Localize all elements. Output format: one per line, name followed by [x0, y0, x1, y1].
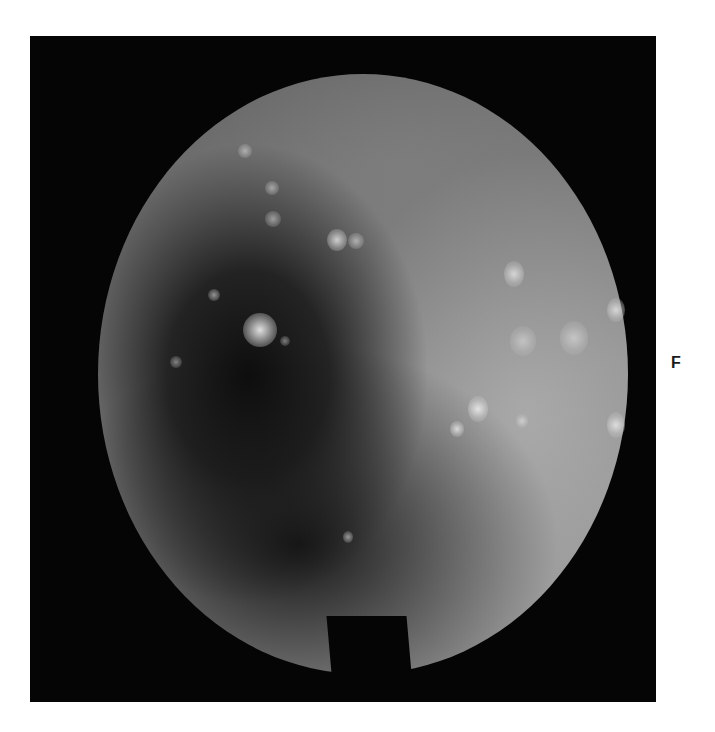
field-notch: [327, 616, 414, 696]
highlight-spot: [450, 421, 464, 437]
image-frame: [30, 36, 656, 702]
highlight-spot: [607, 298, 625, 322]
panel-label: F: [671, 354, 681, 372]
endoscopic-view: [98, 74, 628, 674]
highlight-spot: [343, 531, 353, 543]
highlight-spot: [238, 144, 252, 158]
highlight-spot: [516, 414, 528, 428]
highlight-spot: [265, 211, 281, 227]
highlight-spot: [504, 261, 524, 287]
highlight-spot: [348, 233, 364, 249]
highlight-spot: [208, 289, 220, 301]
highlight-spot: [327, 229, 347, 251]
highlight-spot: [265, 181, 279, 195]
highlight-spot: [170, 356, 182, 368]
highlight-spot: [510, 326, 536, 356]
highlight-spot: [607, 412, 625, 438]
highlight-spot: [560, 321, 588, 355]
highlight-spot: [243, 313, 277, 347]
highlight-spot: [468, 396, 488, 422]
highlight-spot: [280, 336, 290, 346]
